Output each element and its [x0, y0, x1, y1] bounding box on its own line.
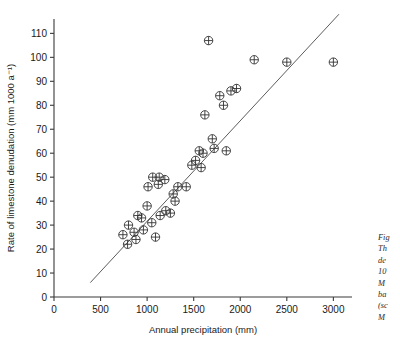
data-point-marker: [156, 211, 164, 219]
data-point-marker: [132, 235, 140, 243]
data-point-marker: [232, 84, 240, 92]
data-point-marker: [199, 149, 207, 157]
y-tick-label: 60: [36, 148, 48, 159]
data-point-marker: [283, 58, 291, 66]
x-tick-label: 1000: [136, 304, 159, 315]
caption-line: Fig: [378, 232, 400, 243]
y-tick-label: 50: [36, 172, 48, 183]
data-point-marker: [204, 36, 212, 44]
data-point-marker: [123, 240, 131, 248]
x-tick-label: 500: [92, 304, 109, 315]
caption-line: ba: [378, 289, 400, 300]
data-point-marker: [219, 101, 227, 109]
data-point-marker: [210, 144, 218, 152]
y-axis-title: Rate of limestone denudation (mm 1000 a⁻…: [5, 64, 16, 252]
caption-line: M: [378, 312, 400, 323]
figure-caption: Fig Th de 10 M ba (sc M: [378, 232, 400, 323]
data-point-marker: [119, 230, 127, 238]
data-point-marker: [155, 173, 163, 181]
x-tick-label: 2500: [276, 304, 299, 315]
x-tick-label: 1500: [183, 304, 206, 315]
y-tick-label: 80: [36, 100, 48, 111]
data-point-marker: [166, 209, 174, 217]
caption-line: de: [378, 255, 400, 266]
axis-labels: 0102030405060708090100110050010001500200…: [5, 28, 345, 335]
figure-panel: 0102030405060708090100110050010001500200…: [0, 0, 400, 346]
data-point-marker: [143, 202, 151, 210]
data-point-marker: [208, 135, 216, 143]
data-point-marker: [144, 183, 152, 191]
y-tick-label: 100: [30, 52, 47, 63]
scatter-chart: 0102030405060708090100110050010001500200…: [0, 0, 400, 346]
data-point-marker: [191, 156, 199, 164]
data-point-marker: [222, 147, 230, 155]
y-tick-label: 30: [36, 220, 48, 231]
y-tick-label: 20: [36, 244, 48, 255]
y-tick-label: 10: [36, 268, 48, 279]
data-point-marker: [124, 221, 132, 229]
data-point-marker: [182, 183, 190, 191]
axes: [50, 19, 352, 301]
y-tick-label: 70: [36, 124, 48, 135]
data-point-marker: [329, 58, 337, 66]
caption-line: Th: [378, 243, 400, 254]
data-point-marker: [201, 111, 209, 119]
x-tick-label: 3000: [322, 304, 345, 315]
caption-line: 10: [378, 266, 400, 277]
data-point-marker: [171, 197, 179, 205]
caption-line: (sc: [378, 300, 400, 311]
data-point-marker: [137, 214, 145, 222]
data-point-marker: [197, 163, 205, 171]
data-point-marker: [227, 87, 235, 95]
data-point-marker: [139, 226, 147, 234]
data-point-marker: [162, 207, 170, 215]
data-point-marker: [250, 56, 258, 64]
y-tick-label: 90: [36, 76, 48, 87]
data-point-marker: [161, 175, 169, 183]
data-point-marker: [216, 91, 224, 99]
data-point-marker: [174, 183, 182, 191]
data-point-marker: [151, 233, 159, 241]
y-tick-label: 40: [36, 196, 48, 207]
y-tick-label: 110: [31, 28, 47, 39]
data-point-marker: [148, 219, 156, 227]
x-tick-label: 2000: [229, 304, 252, 315]
x-axis-title: Annual precipitation (mm): [149, 324, 257, 335]
x-tick-label: 0: [51, 304, 57, 315]
caption-line: M: [378, 278, 400, 289]
y-tick-label: 0: [41, 292, 47, 303]
